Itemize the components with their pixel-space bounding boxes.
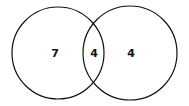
venn-diagram: 7 4 4 [0,0,189,106]
intersection-count: 4 [90,47,98,60]
left-only-count: 7 [51,47,59,60]
right-only-count: 4 [127,47,135,60]
